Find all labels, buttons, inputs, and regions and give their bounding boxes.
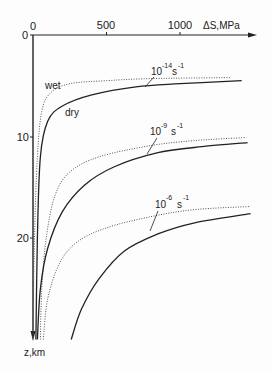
svg-text:-14: -14 [162, 62, 172, 69]
curve-5 [71, 214, 250, 340]
y-tick-0: 0 [22, 29, 28, 41]
y-tick-10: 10 [17, 131, 29, 143]
strength-depth-chart: 0 500 1000 ΔS,MPa 0 10 20 z,km wet dry 1… [0, 0, 273, 374]
curve-1 [36, 81, 242, 340]
x-axis-label: ΔS,MPa [203, 20, 240, 31]
svg-text:-1: -1 [177, 122, 183, 129]
curve-4 [43, 207, 250, 340]
x-tick-1000: 1000 [168, 19, 192, 31]
svg-text:10: 10 [150, 126, 162, 137]
svg-text:s: s [177, 199, 182, 210]
x-axis-arrow-icon [248, 33, 257, 38]
x-tick-0: 0 [30, 20, 36, 32]
svg-text:-6: -6 [166, 194, 172, 201]
svg-text:-1: -1 [183, 194, 189, 201]
svg-text:s: s [171, 126, 176, 137]
svg-text:10: 10 [151, 66, 163, 77]
dry-label: dry [65, 107, 79, 118]
svg-text:10: 10 [155, 199, 167, 210]
y-tick-20: 20 [17, 232, 29, 244]
x-tick-500: 500 [97, 19, 115, 31]
svg-text:-1: -1 [178, 62, 184, 69]
svg-text:-9: -9 [161, 122, 167, 129]
wet-label: wet [44, 80, 61, 91]
x-axis: 0 500 1000 ΔS,MPa [30, 19, 257, 38]
y-axis-label: z,km [24, 347, 45, 358]
curve-2 [40, 138, 246, 340]
svg-text:s: s [172, 66, 177, 77]
curve-0 [33, 78, 230, 340]
